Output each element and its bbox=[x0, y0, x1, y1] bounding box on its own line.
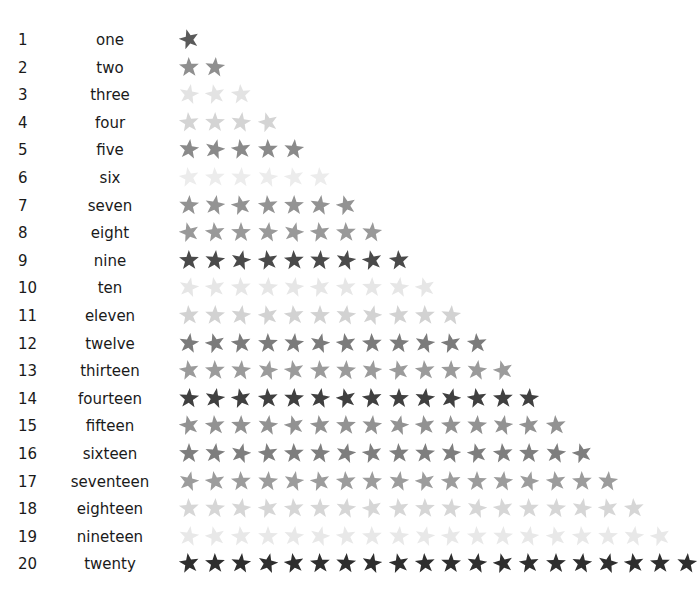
star-icon bbox=[204, 332, 230, 356]
star-icon bbox=[178, 28, 204, 52]
star-icon bbox=[257, 166, 283, 190]
star-icon bbox=[204, 56, 230, 80]
star-icon bbox=[361, 414, 387, 438]
star-icon bbox=[230, 166, 256, 190]
star-icon bbox=[440, 497, 466, 521]
number-row: 7seven bbox=[0, 192, 699, 220]
star-icon bbox=[257, 194, 283, 218]
star-icon bbox=[440, 359, 466, 383]
row-number: 6 bbox=[18, 164, 48, 192]
star-icon bbox=[335, 332, 361, 356]
row-word: three bbox=[50, 81, 170, 109]
star-icon bbox=[518, 470, 544, 494]
star-icon bbox=[283, 387, 309, 411]
star-icon bbox=[204, 111, 230, 135]
star-icon bbox=[518, 442, 544, 466]
star-group bbox=[178, 56, 230, 80]
star-icon bbox=[283, 552, 309, 576]
star-icon bbox=[545, 470, 571, 494]
star-icon bbox=[518, 414, 544, 438]
star-icon bbox=[335, 470, 361, 494]
star-icon bbox=[388, 332, 414, 356]
star-icon bbox=[388, 552, 414, 576]
star-icon bbox=[257, 111, 283, 135]
star-icon bbox=[335, 387, 361, 411]
number-row: 20twenty bbox=[0, 550, 699, 578]
star-icon bbox=[623, 497, 649, 521]
star-icon bbox=[309, 304, 335, 328]
row-number: 20 bbox=[18, 550, 48, 578]
star-icon bbox=[204, 276, 230, 300]
star-icon bbox=[466, 414, 492, 438]
star-icon bbox=[440, 552, 466, 576]
star-icon bbox=[388, 414, 414, 438]
star-icon bbox=[178, 332, 204, 356]
star-icon bbox=[466, 442, 492, 466]
star-icon bbox=[466, 387, 492, 411]
star-icon bbox=[361, 276, 387, 300]
star-icon bbox=[178, 387, 204, 411]
number-row: 8eight bbox=[0, 219, 699, 247]
star-icon bbox=[204, 249, 230, 273]
number-row: 5five bbox=[0, 136, 699, 164]
star-icon bbox=[361, 249, 387, 273]
star-icon bbox=[230, 221, 256, 245]
star-icon bbox=[230, 414, 256, 438]
star-icon bbox=[257, 442, 283, 466]
star-icon bbox=[414, 552, 440, 576]
star-icon bbox=[309, 359, 335, 383]
star-icon bbox=[204, 83, 230, 107]
star-icon bbox=[204, 470, 230, 494]
star-group bbox=[178, 304, 466, 328]
number-row: 16sixteen bbox=[0, 440, 699, 468]
star-icon bbox=[335, 304, 361, 328]
star-icon bbox=[571, 525, 597, 549]
star-icon bbox=[361, 497, 387, 521]
star-icon bbox=[283, 194, 309, 218]
star-group bbox=[178, 138, 309, 162]
star-icon bbox=[309, 470, 335, 494]
row-word: eight bbox=[50, 219, 170, 247]
star-icon bbox=[309, 414, 335, 438]
star-icon bbox=[361, 221, 387, 245]
star-icon bbox=[492, 497, 518, 521]
row-word: eighteen bbox=[50, 495, 170, 523]
star-icon bbox=[230, 332, 256, 356]
star-icon bbox=[492, 414, 518, 438]
star-icon bbox=[414, 332, 440, 356]
number-row: 13thirteen bbox=[0, 357, 699, 385]
star-group bbox=[178, 497, 649, 521]
star-icon bbox=[309, 194, 335, 218]
star-icon bbox=[230, 276, 256, 300]
star-icon bbox=[649, 552, 675, 576]
star-icon bbox=[571, 497, 597, 521]
star-group bbox=[178, 249, 414, 273]
star-icon bbox=[597, 525, 623, 549]
star-icon bbox=[257, 470, 283, 494]
star-icon bbox=[257, 332, 283, 356]
star-icon bbox=[414, 304, 440, 328]
star-icon bbox=[466, 552, 492, 576]
star-icon bbox=[335, 552, 361, 576]
row-word: five bbox=[50, 136, 170, 164]
star-icon bbox=[257, 304, 283, 328]
star-icon bbox=[623, 525, 649, 549]
star-icon bbox=[414, 276, 440, 300]
star-group bbox=[178, 525, 676, 549]
star-icon bbox=[230, 249, 256, 273]
row-number: 8 bbox=[18, 219, 48, 247]
star-icon bbox=[388, 387, 414, 411]
star-icon bbox=[440, 525, 466, 549]
star-icon bbox=[204, 304, 230, 328]
star-group bbox=[178, 552, 699, 576]
star-icon bbox=[257, 138, 283, 162]
star-icon bbox=[204, 194, 230, 218]
star-icon bbox=[361, 470, 387, 494]
star-icon bbox=[178, 552, 204, 576]
star-icon bbox=[204, 414, 230, 438]
star-icon bbox=[676, 552, 699, 576]
star-icon bbox=[204, 442, 230, 466]
row-number: 17 bbox=[18, 468, 48, 496]
star-icon bbox=[388, 470, 414, 494]
star-icon bbox=[335, 359, 361, 383]
